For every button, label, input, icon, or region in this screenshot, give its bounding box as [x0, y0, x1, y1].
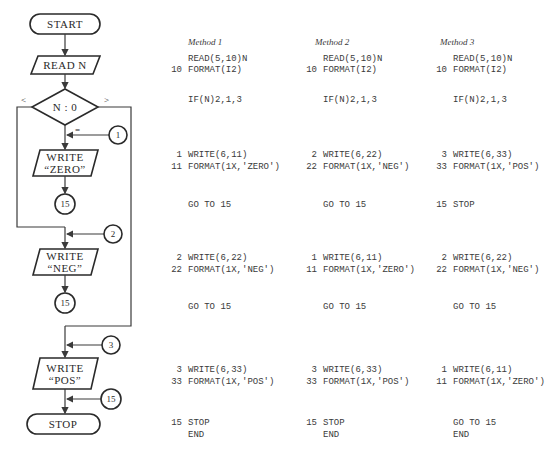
read-input-box: READ N — [31, 56, 100, 74]
connector-15-pos: 15 — [101, 389, 121, 409]
branch-equal-label: = — [75, 125, 80, 135]
svg-text:15: 15 — [61, 298, 71, 308]
svg-text:1: 1 — [116, 130, 121, 140]
svg-text:“POS”: “POS” — [49, 374, 81, 386]
read-label: READ N — [43, 59, 87, 71]
decision-label: N : 0 — [53, 101, 78, 113]
stop-label: STOP — [49, 418, 78, 430]
connector-2: 2 — [104, 225, 122, 243]
svg-text:WRITE: WRITE — [46, 250, 83, 262]
write-pos-box: WRITE “POS” — [33, 358, 98, 389]
connector-15-neg: 15 — [55, 293, 75, 313]
method-title: Method 3 — [440, 37, 474, 47]
svg-text:“ZERO”: “ZERO” — [44, 163, 85, 175]
write-neg-box: WRITE “NEG” — [33, 249, 98, 275]
connector-15-zero: 15 — [55, 194, 75, 214]
write-zero-box: WRITE “ZERO” — [33, 150, 98, 176]
svg-text:2: 2 — [111, 229, 116, 239]
svg-text:“NEG”: “NEG” — [48, 262, 83, 274]
svg-text:WRITE: WRITE — [46, 151, 83, 163]
start-label: START — [47, 18, 83, 30]
svg-text:15: 15 — [61, 199, 71, 209]
method-title: Method 2 — [315, 37, 349, 47]
start-terminal: START — [30, 14, 100, 34]
connector-1: 1 — [109, 126, 127, 144]
connector-3: 3 — [102, 336, 120, 354]
svg-text:3: 3 — [109, 340, 114, 350]
svg-text:WRITE: WRITE — [46, 362, 83, 374]
branch-greater-label: > — [104, 95, 109, 105]
flowchart: START READ N N : 0 < > = 1 WRITE “ZERO” … — [0, 0, 150, 454]
method-title: Method 1 — [188, 37, 222, 47]
branch-less-label: < — [21, 95, 26, 105]
decision-diamond: N : 0 — [32, 89, 98, 125]
stop-terminal: STOP — [27, 414, 100, 434]
svg-text:15: 15 — [107, 394, 117, 404]
